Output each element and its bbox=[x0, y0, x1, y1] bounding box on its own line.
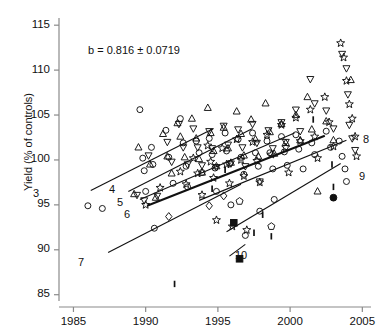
data-points bbox=[85, 39, 361, 287]
trend-line-label-6: 6 bbox=[124, 208, 130, 220]
x-tick-label: 2000 bbox=[264, 315, 316, 327]
x-tick-label: 2005 bbox=[336, 315, 384, 327]
trend-line-label-8: 8 bbox=[363, 133, 369, 145]
trend-line-label-5: 5 bbox=[117, 196, 123, 208]
regression-annotation: b = 0.816 ± 0.0719 bbox=[88, 44, 180, 56]
y-tick-label: 90 bbox=[16, 242, 50, 254]
x-tick-label: 1985 bbox=[47, 315, 99, 327]
series-open-pentagon bbox=[236, 198, 275, 230]
y-tick-label: 100 bbox=[16, 152, 50, 164]
trend-line-label-3: 3 bbox=[33, 187, 39, 199]
y-tick-label: 110 bbox=[16, 63, 50, 75]
y-tick-label: 95 bbox=[16, 197, 50, 209]
y-tick-label: 105 bbox=[16, 108, 50, 120]
y-tick-label: 115 bbox=[16, 18, 50, 30]
chart-page: Yield (% of controls) b = 0.816 ± 0.0719… bbox=[0, 0, 384, 336]
y-tick-label: 85 bbox=[16, 287, 50, 299]
x-tick-label: 1990 bbox=[120, 315, 172, 327]
scatter-plot-figure bbox=[0, 0, 384, 336]
trend-line-label-10: 10 bbox=[235, 249, 247, 261]
series-filled-circle bbox=[330, 194, 337, 201]
x-tick-label: 1995 bbox=[192, 315, 244, 327]
series-star bbox=[142, 39, 361, 233]
trend-line-label-4: 4 bbox=[109, 183, 115, 195]
trend-line-label-9: 9 bbox=[359, 170, 365, 182]
trend-line-label-7: 7 bbox=[78, 256, 84, 268]
